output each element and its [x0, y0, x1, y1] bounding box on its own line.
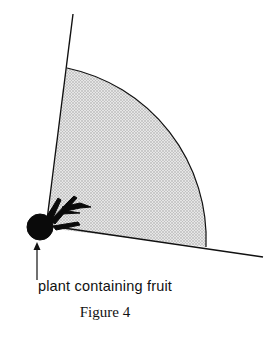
shaded-sector — [47, 68, 206, 247]
figure-caption: Figure 4 — [0, 304, 210, 321]
pointer-arrow — [34, 242, 41, 280]
plant-label: plant containing fruit — [0, 278, 210, 294]
